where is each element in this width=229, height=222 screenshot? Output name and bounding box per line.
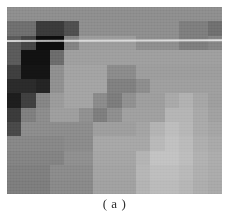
mosaic-cell bbox=[79, 21, 93, 35]
mosaic-cell bbox=[150, 50, 164, 64]
mosaic-cell bbox=[150, 180, 164, 194]
mosaic-cell bbox=[193, 136, 207, 150]
mosaic-cell bbox=[179, 79, 193, 93]
mosaic-cell bbox=[165, 21, 179, 35]
mosaic-cell bbox=[150, 108, 164, 122]
mosaic-cell bbox=[50, 65, 64, 79]
mosaic-cell bbox=[165, 136, 179, 150]
mosaic-cell bbox=[21, 165, 35, 179]
mosaic-cell bbox=[165, 50, 179, 64]
mosaic-cell bbox=[21, 93, 35, 107]
mosaic-cell bbox=[21, 108, 35, 122]
mosaic-cell bbox=[50, 93, 64, 107]
mosaic-cell bbox=[193, 36, 207, 50]
mosaic-cell bbox=[107, 21, 121, 35]
mosaic-cell bbox=[107, 79, 121, 93]
mosaic-cell bbox=[107, 65, 121, 79]
mosaic-cell bbox=[79, 122, 93, 136]
mosaic-cell bbox=[36, 151, 50, 165]
mosaic-cell bbox=[107, 151, 121, 165]
mosaic-cell bbox=[208, 165, 222, 179]
mosaic-cell bbox=[50, 36, 64, 50]
mosaic-cell bbox=[208, 136, 222, 150]
mosaic-cell bbox=[50, 21, 64, 35]
mosaic-cell bbox=[193, 7, 207, 21]
mosaic-cell bbox=[21, 180, 35, 194]
mosaic-cell bbox=[79, 136, 93, 150]
mosaic-cell bbox=[21, 21, 35, 35]
mosaic-cell bbox=[79, 65, 93, 79]
mosaic-cell bbox=[193, 180, 207, 194]
mosaic-cell bbox=[193, 93, 207, 107]
mosaic-cell bbox=[122, 36, 136, 50]
mosaic-cell bbox=[179, 180, 193, 194]
mosaic-cell bbox=[36, 79, 50, 93]
mosaic-cell bbox=[50, 180, 64, 194]
mosaic-cell bbox=[21, 50, 35, 64]
mosaic-cell bbox=[208, 151, 222, 165]
mosaic-cell bbox=[7, 93, 21, 107]
mosaic-cell bbox=[7, 50, 21, 64]
mosaic-cell bbox=[179, 65, 193, 79]
mosaic-cell bbox=[7, 65, 21, 79]
mosaic-cell bbox=[79, 7, 93, 21]
mosaic-cell bbox=[208, 180, 222, 194]
mosaic-cell bbox=[7, 180, 21, 194]
mosaic-cell bbox=[179, 136, 193, 150]
mosaic-cell bbox=[136, 50, 150, 64]
mosaic-cell bbox=[107, 165, 121, 179]
mosaic-cell bbox=[36, 36, 50, 50]
mosaic-cell bbox=[64, 21, 78, 35]
mosaic-cell bbox=[50, 50, 64, 64]
mosaic-cell bbox=[193, 151, 207, 165]
mosaic-cell bbox=[150, 165, 164, 179]
mosaic-cell bbox=[79, 79, 93, 93]
mosaic-cell bbox=[179, 165, 193, 179]
mosaic-cell bbox=[122, 21, 136, 35]
mosaic-cell bbox=[122, 79, 136, 93]
mosaic-cell bbox=[208, 122, 222, 136]
mosaic-cell bbox=[122, 151, 136, 165]
mosaic-cell bbox=[64, 65, 78, 79]
mosaic-cell bbox=[136, 93, 150, 107]
mosaic-cell bbox=[7, 7, 21, 21]
mosaic-cell bbox=[93, 122, 107, 136]
mosaic-cell bbox=[50, 136, 64, 150]
mosaic-cell bbox=[122, 136, 136, 150]
mosaic-cell bbox=[179, 50, 193, 64]
mosaic-cell bbox=[150, 36, 164, 50]
mosaic-cell bbox=[107, 93, 121, 107]
mosaic-cell bbox=[193, 21, 207, 35]
mosaic-cell bbox=[64, 108, 78, 122]
mosaic-cell bbox=[150, 65, 164, 79]
mosaic-cell bbox=[93, 151, 107, 165]
mosaic-cell bbox=[122, 165, 136, 179]
mosaic-cell bbox=[122, 50, 136, 64]
mosaic-cell bbox=[93, 180, 107, 194]
mosaic-cell bbox=[150, 79, 164, 93]
mosaic-cell bbox=[7, 36, 21, 50]
mosaic-cell bbox=[64, 79, 78, 93]
mosaic-cell bbox=[136, 79, 150, 93]
mosaic-cell bbox=[36, 180, 50, 194]
mosaic-cell bbox=[36, 122, 50, 136]
mosaic-cell bbox=[122, 7, 136, 21]
mosaic-cell bbox=[165, 79, 179, 93]
mosaic-cell bbox=[64, 136, 78, 150]
mosaic-cell bbox=[122, 180, 136, 194]
mosaic-cell bbox=[79, 165, 93, 179]
mosaic-cell bbox=[79, 93, 93, 107]
mosaic-cell bbox=[36, 65, 50, 79]
mosaic-cell bbox=[165, 65, 179, 79]
mosaic-cell bbox=[122, 108, 136, 122]
mosaic-cell bbox=[208, 36, 222, 50]
mosaic-cell bbox=[165, 151, 179, 165]
mosaic-cell bbox=[179, 36, 193, 50]
mosaic-cell bbox=[64, 165, 78, 179]
mosaic-cell bbox=[50, 108, 64, 122]
mosaic-cell bbox=[208, 7, 222, 21]
mosaic-cell bbox=[64, 50, 78, 64]
mosaic-cell bbox=[136, 165, 150, 179]
mosaic-cell bbox=[136, 36, 150, 50]
mosaic-cell bbox=[36, 108, 50, 122]
